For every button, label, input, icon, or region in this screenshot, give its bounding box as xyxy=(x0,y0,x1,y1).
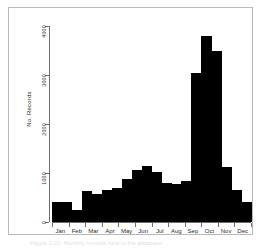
figure-caption: Figure 1.22: Monthly records held in the… xyxy=(30,240,258,249)
bar xyxy=(171,184,182,222)
x-axis-tick-label: Oct xyxy=(205,228,214,234)
bar xyxy=(221,167,232,222)
bar xyxy=(161,183,172,222)
x-axis-tick xyxy=(185,223,186,227)
x-axis-tick xyxy=(152,223,153,227)
plot-area: 01000200030004000 JanFebMarAprMayJunJulA… xyxy=(49,22,254,224)
bar xyxy=(181,181,192,222)
bar-series xyxy=(52,22,251,222)
figure-frame: No. Records 01000200030004000 JanFebMarA… xyxy=(8,7,253,235)
bar xyxy=(122,179,133,222)
x-axis-tick xyxy=(102,223,103,227)
x-axis-tick xyxy=(201,223,202,227)
bar xyxy=(112,188,123,222)
figure-container: No. Records 01000200030004000 JanFebMarA… xyxy=(0,0,263,250)
y-axis-title: No. Records xyxy=(24,8,34,210)
x-axis-tick-label: Jul xyxy=(156,228,164,234)
y-axis-tick-label: 0 xyxy=(41,221,47,224)
bar xyxy=(62,202,73,222)
x-axis-tick-label: May xyxy=(121,228,132,234)
x-axis-tick-label: Jun xyxy=(138,228,148,234)
bar xyxy=(191,73,202,222)
x-axis-tick xyxy=(251,223,252,227)
x-axis-tick-label: Nov xyxy=(221,228,232,234)
x-axis-tick xyxy=(118,223,119,227)
bar xyxy=(231,190,242,222)
bar xyxy=(92,194,103,222)
x-axis-tick-label: Apr xyxy=(105,228,114,234)
y-axis-tick-label: 3000 xyxy=(41,74,47,87)
x-axis-tick xyxy=(135,223,136,227)
bar xyxy=(82,191,93,222)
x-axis-tick-label: Mar xyxy=(88,228,98,234)
bar xyxy=(211,51,222,223)
bar xyxy=(132,170,143,222)
y-axis-tick-label: 1000 xyxy=(41,172,47,185)
x-axis-tick-label: Sep xyxy=(188,228,199,234)
x-axis-tick-label: Feb xyxy=(72,228,82,234)
x-axis-tick-label: Jan xyxy=(55,228,65,234)
x-axis-tick xyxy=(168,223,169,227)
y-axis-line xyxy=(49,26,50,222)
x-axis-tick xyxy=(218,223,219,227)
bar xyxy=(72,210,83,222)
y-axis-tick-label: 2000 xyxy=(41,123,47,136)
x-axis-tick xyxy=(85,223,86,227)
x-axis-tick-label: Aug xyxy=(171,228,182,234)
bar xyxy=(142,166,153,222)
x-axis-tick xyxy=(52,223,53,227)
y-axis-tick-label: 4000 xyxy=(41,25,47,38)
x-axis-tick-label: Dec xyxy=(237,228,248,234)
x-axis-tick xyxy=(69,223,70,227)
x-axis-tick xyxy=(234,223,235,227)
y-axis-title-label: No. Records xyxy=(26,91,32,127)
bar xyxy=(241,202,252,222)
